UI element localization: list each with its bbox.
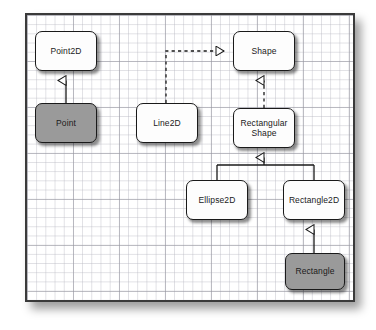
class-box-point2d[interactable]: Point2D bbox=[35, 31, 97, 71]
class-box-rectangle[interactable]: Rectangle bbox=[285, 253, 345, 290]
class-label-point: Point bbox=[53, 118, 79, 128]
class-box-ellipse2d[interactable]: Ellipse2D bbox=[186, 180, 248, 220]
class-label-line2d: Line2D bbox=[150, 118, 184, 128]
diagram-canvas: Point2D Point Line2D Shape Rectangular S… bbox=[0, 0, 376, 330]
class-box-rectangular-shape[interactable]: Rectangular Shape bbox=[233, 108, 295, 148]
class-box-line2d[interactable]: Line2D bbox=[136, 103, 198, 143]
class-box-shape[interactable]: Shape bbox=[233, 31, 295, 71]
class-box-point[interactable]: Point bbox=[35, 103, 97, 143]
class-label-ellipse2d: Ellipse2D bbox=[196, 195, 239, 205]
class-label-rectangular-shape: Rectangular Shape bbox=[234, 118, 294, 139]
class-label-rectangle: Rectangle bbox=[292, 266, 337, 276]
class-box-rectangle2d[interactable]: Rectangle2D bbox=[283, 180, 345, 220]
class-label-shape: Shape bbox=[248, 46, 279, 56]
class-label-rectangle2d: Rectangle2D bbox=[286, 195, 342, 205]
class-label-point2d: Point2D bbox=[48, 46, 85, 56]
